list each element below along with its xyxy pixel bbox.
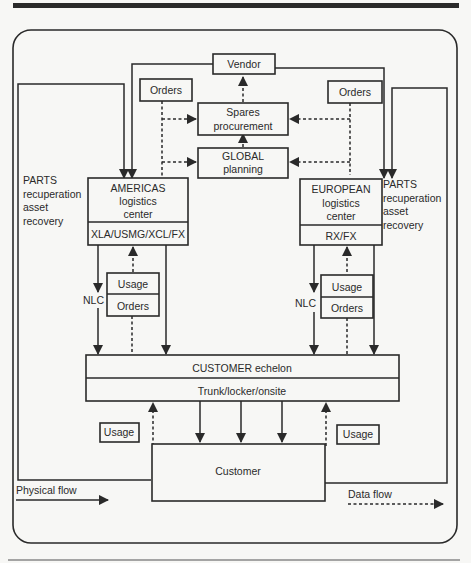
orders-mid-right-label: Orders [331, 302, 363, 314]
usage-orders-left-box: Usage Orders [107, 273, 159, 316]
legend-data-flow: Data flow [348, 488, 443, 504]
parts-left-label: PARTS recuperation asset recovery [23, 174, 82, 227]
orders-left-box: Orders [140, 79, 192, 101]
usage-bottom-right-box: Usage [337, 425, 379, 444]
americas-center-label: center [123, 208, 153, 220]
orders-right-box: Orders [328, 81, 382, 103]
legend-physical-flow: Physical flow [16, 484, 108, 500]
global-planning-box: GLOBAL planning [198, 148, 288, 178]
european-label: EUROPEAN [312, 183, 371, 195]
spares-procurement-box: Spares procurement [198, 103, 288, 135]
americas-label: AMERICAS [111, 182, 166, 194]
parts-right-label: PARTS recuperation asset recovery [383, 178, 442, 231]
usage-right-label: Usage [332, 281, 363, 293]
data-flow-label: Data flow [348, 488, 392, 500]
physical-flow-label: Physical flow [16, 484, 77, 496]
usage-bottom-right-label: Usage [343, 428, 374, 440]
americas-logistics-label: logistics [119, 195, 156, 207]
parts-left-line-3: asset [23, 201, 48, 213]
customer-echelon-box: CUSTOMER echelon Trunk/locker/onsite [86, 355, 399, 401]
planning-label: planning [223, 163, 263, 175]
parts-left-line-2: recuperation [23, 188, 82, 200]
european-center-label: center [326, 210, 356, 222]
orders-mid-left-label: Orders [117, 300, 149, 312]
usage-bottom-left-label: Usage [104, 426, 135, 438]
parts-left-line-4: recovery [23, 215, 64, 227]
vendor-box: Vendor [213, 54, 275, 74]
top-rule [13, 3, 459, 8]
european-codes-label: RX/FX [326, 230, 357, 242]
usage-orders-right-box: Usage Orders [321, 275, 373, 318]
parts-right-line-4: recovery [383, 219, 424, 231]
parts-right-line-1: PARTS [383, 178, 417, 190]
parts-right-line-3: asset [383, 205, 408, 217]
orders-left-label: Orders [150, 84, 182, 96]
usage-left-label: Usage [118, 278, 149, 290]
americas-logistics-center-box: AMERICAS logistics center XLA/USMG/XCL/F… [88, 178, 188, 245]
procurement-label: procurement [214, 120, 273, 132]
trunk-locker-onsite-label: Trunk/locker/onsite [198, 385, 286, 397]
european-logistics-label: logistics [322, 197, 359, 209]
parts-right-line-2: recuperation [383, 192, 442, 204]
customer-label: Customer [215, 465, 261, 477]
vendor-label: Vendor [227, 58, 261, 70]
parts-left-line-1: PARTS [23, 174, 57, 186]
customer-box: Customer [152, 444, 325, 501]
usage-bottom-left-box: Usage [100, 423, 139, 442]
orders-right-label: Orders [339, 86, 371, 98]
european-logistics-center-box: EUROPEAN logistics center RX/FX [300, 179, 382, 245]
nlc-right-label: NLC [295, 297, 316, 309]
nlc-left-label: NLC [83, 294, 104, 306]
americas-codes-label: XLA/USMG/XCL/FX [91, 228, 185, 240]
customer-echelon-label: CUSTOMER echelon [192, 362, 292, 374]
spares-label: Spares [226, 106, 259, 118]
supply-chain-diagram: Vendor Orders Orders Spares procurement … [0, 0, 471, 563]
global-label: GLOBAL [222, 150, 264, 162]
